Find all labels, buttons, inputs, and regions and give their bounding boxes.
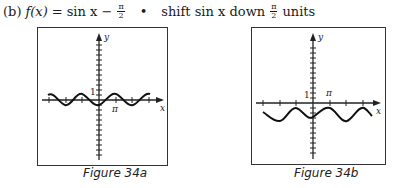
figure-34a-caption: Figure 34a xyxy=(83,166,147,180)
tick-label-1: 1 xyxy=(304,90,310,100)
function-expression: sin x − xyxy=(67,4,113,19)
bullet-separator: • xyxy=(140,4,148,19)
figure-34b-caption: Figure 34b xyxy=(294,166,358,180)
y-axis-label: y xyxy=(317,32,324,42)
pi-over-two-fraction: π 2 xyxy=(117,3,124,20)
x-axis-label: x xyxy=(160,103,165,113)
sine-graph-a: 1 π x y xyxy=(38,28,167,165)
tick-label-pi: π xyxy=(325,88,333,98)
x-axis-label: x xyxy=(376,106,381,116)
figure-34a-graph: 1 π x y xyxy=(37,27,168,166)
problem-heading: (b) f(x) = sin x − π 2 • shift sin x dow… xyxy=(3,3,315,20)
y-axis-label: y xyxy=(103,32,110,42)
y-axis-arrow-icon xyxy=(96,33,102,41)
figure-34b-graph: 1 π x y xyxy=(251,27,386,165)
sine-graph-b: 1 π x y xyxy=(252,28,385,164)
equals-sign: = xyxy=(52,4,63,19)
y-axis-arrow-icon xyxy=(310,33,316,41)
tick-label-pi: π xyxy=(111,104,119,114)
tick-label-1: 1 xyxy=(90,87,96,97)
shifted-sine-curve xyxy=(263,108,372,122)
function-lhs: f(x) xyxy=(25,4,47,19)
description-units: units xyxy=(282,4,315,19)
description-fraction: π 2 xyxy=(270,3,277,20)
description-text: shift sin x down xyxy=(161,4,265,19)
part-label: (b) xyxy=(3,4,21,19)
